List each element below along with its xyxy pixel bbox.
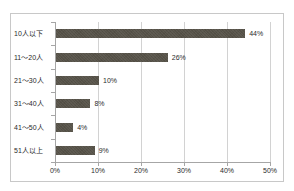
gridline-x-50pct [270, 22, 271, 162]
y-axis-tick [51, 92, 55, 93]
gridline-x-30pct [184, 22, 185, 162]
bar-value-label: 9% [99, 146, 109, 155]
category-label-wrap: 11～20人 [14, 53, 52, 62]
bar-value-label: 4% [77, 123, 87, 132]
category-label: 51人以上 [14, 146, 52, 155]
x-axis-tick-label: 0% [40, 166, 70, 175]
gridline-x-20pct [141, 22, 142, 162]
category-label-wrap: 31～40人 [14, 99, 52, 108]
bar [56, 146, 95, 155]
x-axis-tick-label: 40% [212, 166, 242, 175]
category-label-wrap: 21～30人 [14, 76, 52, 85]
y-axis-tick [51, 45, 55, 46]
gridline-x-10pct [98, 22, 99, 162]
bar-value-label: 8% [94, 99, 104, 108]
category-label-wrap: 51人以上 [14, 146, 52, 155]
category-label-wrap: 10人以下 [14, 29, 52, 38]
bar-chart-figure: 10人以下11～20人21～30人31～40人41～50人51人以上 44%26… [0, 0, 294, 191]
category-label: 31～40人 [14, 99, 52, 108]
category-label-wrap: 41～50人 [14, 123, 52, 132]
x-axis-tick-label: 10% [83, 166, 113, 175]
gridline-x-0pct [55, 22, 56, 162]
y-axis-tick [51, 69, 55, 70]
category-label: 21～30人 [14, 76, 52, 85]
x-axis-tick-label: 50% [255, 166, 285, 175]
bar-value-label: 10% [103, 76, 117, 85]
category-label: 41～50人 [14, 123, 52, 132]
bar [56, 53, 168, 62]
gridline-x-40pct [227, 22, 228, 162]
bar [56, 29, 245, 38]
plot-area [55, 22, 270, 162]
bar [56, 123, 73, 132]
category-label: 11～20人 [14, 53, 52, 62]
bar [56, 76, 99, 85]
y-axis-tick [51, 115, 55, 116]
x-axis-tick-label: 30% [169, 166, 199, 175]
x-axis-tick-label: 20% [126, 166, 156, 175]
x-axis-line [55, 162, 271, 163]
category-label: 10人以下 [14, 29, 52, 38]
y-axis-tick [51, 22, 55, 23]
bar-value-label: 44% [249, 29, 263, 38]
y-axis-tick [51, 139, 55, 140]
bar-value-label: 26% [172, 53, 186, 62]
bar [56, 99, 90, 108]
